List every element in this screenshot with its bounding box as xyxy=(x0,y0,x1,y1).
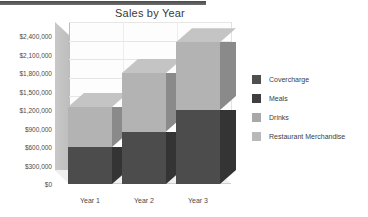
y-axis-tick-label: $900,000 xyxy=(25,125,52,132)
y-axis-tick-label: $0 xyxy=(45,181,52,188)
x-axis-tick-label: Year 1 xyxy=(80,197,100,204)
bar-segment-front xyxy=(68,147,112,184)
legend-swatch-icon xyxy=(252,132,261,141)
legend-swatch-icon xyxy=(252,94,261,103)
plot-area xyxy=(55,22,231,192)
gridline-horizontal xyxy=(69,22,231,23)
legend-item-label: Covercharge xyxy=(269,76,309,83)
bar-segment-front xyxy=(122,73,166,132)
x-axis-tick-label: Year 3 xyxy=(188,197,208,204)
bar-segment-side xyxy=(220,110,236,184)
bar-segment xyxy=(122,132,166,184)
y-axis-tick-label: $1,800,000 xyxy=(19,70,52,77)
y-axis-tick-label: $1,500,000 xyxy=(19,88,52,95)
y-axis-tick-label: $600,000 xyxy=(25,144,52,151)
bar-column xyxy=(68,107,112,184)
bar-segment-front xyxy=(122,132,166,184)
legend-item: Restaurant Merchandise xyxy=(252,127,368,146)
bar-segment-front xyxy=(176,42,220,110)
chart-screenshot: Sales by Year $0$300,000$600,000$900,000… xyxy=(0,0,368,217)
bar-column xyxy=(122,73,166,184)
chart-legend: CoverchargeMealsDrinksRestaurant Merchan… xyxy=(252,70,368,146)
bar-segment-front xyxy=(176,110,220,184)
legend-item: Meals xyxy=(252,89,368,108)
bar-segment-front xyxy=(68,107,112,147)
bar-segment xyxy=(176,110,220,184)
legend-swatch-icon xyxy=(252,113,261,122)
chart-title: Sales by Year xyxy=(60,7,240,19)
y-axis-labels: $0$300,000$600,000$900,000$1,200,000$1,5… xyxy=(0,22,52,192)
y-axis-tick-label: $2,100,000 xyxy=(19,51,52,58)
header-rule xyxy=(0,1,206,5)
legend-item-label: Meals xyxy=(269,95,288,102)
legend-item-label: Drinks xyxy=(269,114,289,121)
y-axis-tick-label: $300,000 xyxy=(25,162,52,169)
bar-segment xyxy=(68,107,112,147)
bar-segment-side xyxy=(220,42,236,110)
legend-item-label: Restaurant Merchandise xyxy=(269,133,345,140)
legend-item: Covercharge xyxy=(252,70,368,89)
legend-swatch-icon xyxy=(252,75,261,84)
x-axis-tick-label: Year 2 xyxy=(134,197,154,204)
y-axis-tick-label: $2,400,000 xyxy=(19,33,52,40)
bar-column xyxy=(176,42,220,184)
legend-item: Drinks xyxy=(252,108,368,127)
bar-segment xyxy=(122,73,166,132)
y-axis-tick-label: $1,200,000 xyxy=(19,107,52,114)
bar-segment xyxy=(176,42,220,110)
bar-segment xyxy=(68,147,112,184)
